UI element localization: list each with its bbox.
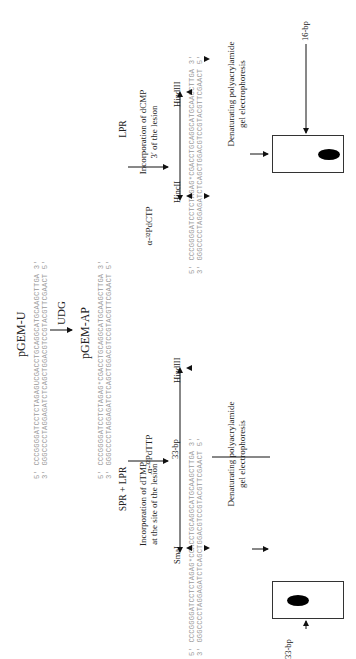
hindiii-right-cut-top-icon [186, 89, 192, 95]
smai-cut-top-icon [186, 545, 192, 551]
arrows-overlay [0, 0, 356, 659]
hincii-cut-top-icon [186, 193, 192, 199]
hincii-cut-bottom-icon [204, 193, 210, 199]
hindiii-right-cut-bottom-icon [204, 56, 210, 62]
smai-cut-bottom-icon [204, 545, 210, 551]
rotated-diagram: pGEM-U 5′ CCCGGGGATCCTCTAGAGUCGACCTGCAGG… [0, 0, 356, 659]
hindiii-cut-top-icon [186, 365, 192, 371]
